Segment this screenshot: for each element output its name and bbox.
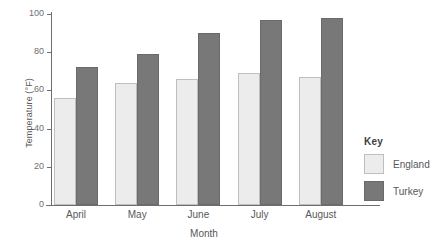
y-tick-label: 100 bbox=[6, 9, 44, 18]
bar-chart: Temperature (°F) 020406080100 AprilMayJu… bbox=[0, 0, 445, 248]
x-tick-label-may: May bbox=[107, 209, 167, 220]
y-tick-label: 0 bbox=[6, 200, 44, 209]
x-tick-label-july: July bbox=[230, 209, 290, 220]
legend-swatch-england-icon bbox=[364, 154, 384, 174]
x-tick-label-april: April bbox=[46, 209, 106, 220]
y-tick-label: 20 bbox=[6, 162, 44, 171]
legend-swatch-turkey-icon bbox=[364, 181, 384, 201]
bar-england-july bbox=[238, 73, 260, 205]
bar-turkey-june bbox=[198, 33, 220, 205]
bar-turkey-august bbox=[321, 18, 343, 205]
bar-england-june bbox=[176, 79, 198, 205]
x-tick-label-august: August bbox=[291, 209, 351, 220]
legend-item-turkey: Turkey bbox=[364, 181, 444, 201]
legend-label-turkey: Turkey bbox=[393, 186, 423, 197]
legend: Key England Turkey bbox=[364, 136, 444, 208]
x-axis-title: Month bbox=[51, 228, 357, 239]
bar-turkey-may bbox=[137, 54, 159, 205]
legend-title: Key bbox=[364, 136, 444, 147]
bar-england-april bbox=[54, 98, 76, 205]
y-tick-label: 40 bbox=[6, 124, 44, 133]
plot-area bbox=[51, 14, 357, 205]
y-tick-mark bbox=[47, 205, 51, 206]
y-tick-label: 60 bbox=[6, 85, 44, 94]
bar-turkey-april bbox=[76, 67, 98, 205]
x-tick-label-june: June bbox=[168, 209, 228, 220]
bar-england-may bbox=[115, 83, 137, 205]
y-tick-label: 80 bbox=[6, 47, 44, 56]
bar-england-august bbox=[299, 77, 321, 205]
legend-item-england: England bbox=[364, 154, 444, 174]
bar-turkey-july bbox=[260, 20, 282, 205]
x-axis-line bbox=[46, 205, 380, 206]
legend-label-england: England bbox=[393, 159, 430, 170]
